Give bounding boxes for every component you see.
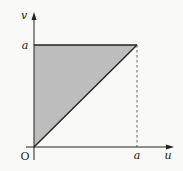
tick-y-label: a — [22, 39, 29, 52]
v-axis-arrow-icon — [32, 12, 37, 20]
tick-x-label: a — [134, 149, 141, 162]
u-axis-label: u — [164, 149, 171, 162]
origin-label: O — [20, 150, 29, 163]
v-axis-label: v — [21, 9, 28, 22]
uv-region-diagram: v a O a u — [0, 0, 183, 171]
